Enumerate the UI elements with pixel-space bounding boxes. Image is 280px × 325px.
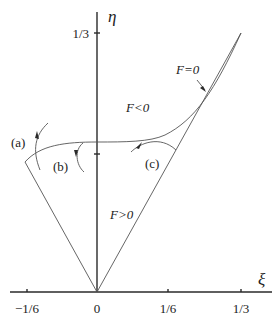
trajectory-c-arrow-icon xyxy=(136,142,142,149)
x-tick-label: 1/3 xyxy=(233,301,250,316)
left-boundary-line xyxy=(25,162,97,292)
right-boundary-line xyxy=(97,33,241,292)
x-axis-label: ξ xyxy=(258,270,266,289)
label-trajectory-b: (b) xyxy=(53,159,68,174)
x-tick-label: 1/6 xyxy=(160,301,177,316)
x-tick-label: −1/6 xyxy=(15,301,39,316)
y-tick-label: 1/3 xyxy=(72,26,89,41)
label-trajectory-c: (c) xyxy=(145,156,159,171)
label-f-negative: F<0 xyxy=(125,100,150,115)
f-zero-pointer-head xyxy=(200,86,206,92)
phase-diagram: −1/6 0 1/6 1/3 1/3 η ξ F=0 F<0 F>0 (a) (… xyxy=(0,0,280,325)
trajectory-a-arrow-icon xyxy=(35,131,39,139)
trajectory-b xyxy=(77,143,84,172)
x-tick-label: 0 xyxy=(94,301,101,316)
trajectory-a xyxy=(36,123,48,170)
label-f-positive: F>0 xyxy=(109,207,134,222)
label-f-zero: F=0 xyxy=(175,62,200,77)
f-zero-curve xyxy=(25,33,241,162)
y-axis-label: η xyxy=(108,7,116,26)
label-trajectory-a: (a) xyxy=(11,135,25,150)
